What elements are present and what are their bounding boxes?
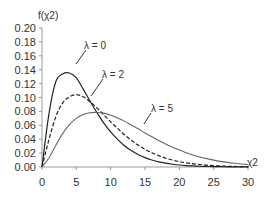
plot-area (42, 73, 248, 167)
curve-series-1 (42, 95, 248, 167)
x-tick-label: 5 (73, 176, 79, 188)
y-tick-label: 0.14 (15, 64, 36, 76)
svg-text:λ = 0: λ = 0 (84, 40, 106, 51)
chi-square-chart: 0.000.020.040.060.080.100.120.140.160.18… (0, 0, 273, 198)
x-tick-label: 0 (39, 176, 45, 188)
curve-series-0 (42, 73, 248, 167)
x-tick-label: 30 (242, 176, 254, 188)
x-tick-label: 25 (208, 176, 220, 188)
y-tick-label: 0.18 (15, 36, 36, 48)
y-tick-label: 0.16 (15, 50, 36, 62)
x-tick-label: 15 (139, 176, 151, 188)
y-tick-label: 0.04 (15, 133, 36, 145)
y-tick-label: 0.06 (15, 119, 36, 131)
y-tick-label: 0.08 (15, 105, 36, 117)
annotation-lambda-2: λ = 2 (91, 69, 124, 96)
annotation-lambda-0: λ = 0 (76, 40, 106, 64)
x-axis: 051015202530 (39, 167, 254, 188)
annotation-lambda-5: λ = 5 (144, 103, 173, 124)
y-tick-label: 0.00 (15, 161, 36, 173)
x-axis-title: χ2 (247, 157, 258, 168)
x-tick-label: 10 (105, 176, 117, 188)
y-axis: 0.000.020.040.060.080.100.120.140.160.18… (15, 22, 42, 173)
svg-text:λ = 2: λ = 2 (102, 69, 124, 80)
y-tick-label: 0.10 (15, 92, 36, 104)
svg-text:λ = 5: λ = 5 (151, 103, 173, 114)
x-tick-label: 20 (173, 176, 185, 188)
y-tick-label: 0.20 (15, 22, 36, 34)
curve-series-2 (42, 112, 248, 167)
y-tick-label: 0.02 (15, 147, 36, 159)
y-axis-title: f(χ2) (38, 10, 58, 21)
y-tick-label: 0.12 (15, 78, 36, 90)
